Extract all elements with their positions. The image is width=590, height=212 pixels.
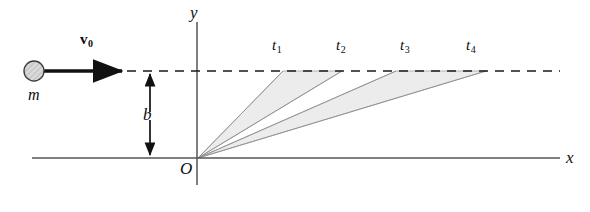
time-label-t1-subscript: 1 <box>277 44 282 55</box>
time-label-t4: t4 <box>466 38 475 53</box>
time-label-t2-symbol: t <box>336 37 340 53</box>
velocity-label-symbol: v <box>80 31 88 47</box>
time-label-t3-symbol: t <box>400 37 404 53</box>
impact-parameter-label: b <box>143 106 152 123</box>
time-label-t3-subscript: 3 <box>405 44 410 55</box>
time-label-t2: t2 <box>336 38 345 53</box>
velocity-label: v0 <box>80 32 93 47</box>
y-axis-label: y <box>190 4 198 21</box>
time-label-t1: t1 <box>272 38 281 53</box>
time-label-t2-subscript: 2 <box>341 44 346 55</box>
velocity-label-subscript: 0 <box>88 38 93 49</box>
physics-figure: y x O m v0 b t1 t2 t3 t4 <box>0 0 590 212</box>
origin-label: O <box>180 160 192 177</box>
time-label-t4-subscript: 4 <box>471 44 476 55</box>
time-label-t1-symbol: t <box>272 37 276 53</box>
time-label-t4-symbol: t <box>466 37 470 53</box>
time-label-t3: t3 <box>400 38 409 53</box>
x-axis-label: x <box>566 149 574 166</box>
particle-mass-hatch <box>25 62 44 81</box>
mass-label: m <box>28 87 40 103</box>
